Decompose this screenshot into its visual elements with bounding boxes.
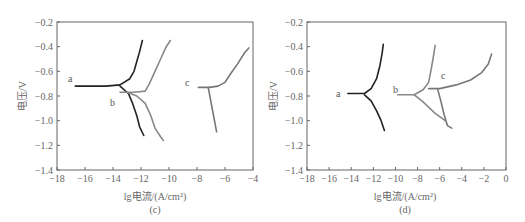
y-tick-label: −1.0 (285, 115, 303, 126)
x-tick-label: −14 (105, 173, 121, 184)
x-tick-label: −4 (248, 173, 259, 184)
y-axis-title: 电压/V (16, 80, 28, 111)
curve-label-c: c (185, 77, 190, 88)
x-tick-label: −6 (220, 173, 231, 184)
curve-label-c: c (441, 70, 446, 81)
curve-a-anodic (75, 41, 142, 87)
x-tick-label: −2 (479, 173, 490, 184)
y-tick-label: −0.2 (35, 17, 53, 28)
x-tick-label: −10 (388, 173, 404, 184)
curve-c-anodic (198, 48, 248, 88)
panel-c: −18−16−14−12−10−8−6−4 −0.2−0.4−0.6−0.8−1… (16, 17, 258, 217)
curve-label-a: a (336, 88, 341, 99)
curve-c-anodic (429, 54, 492, 89)
y-axis-ticks: −0.2−0.4−0.6−0.8−1.0−1.2−1.4 (285, 17, 310, 176)
x-tick-label: 0 (504, 173, 509, 184)
curve-b-anodic (398, 45, 436, 94)
x-tick-label: −4 (456, 173, 467, 184)
x-tick-label: −8 (192, 173, 203, 184)
y-axis-title: 电压/V (267, 80, 279, 111)
panel-caption: (c) (149, 204, 160, 216)
x-tick-label: −8 (412, 173, 423, 184)
y-tick-label: −0.2 (285, 17, 303, 28)
x-tick-label: −12 (366, 173, 382, 184)
figure-canvas: −18−16−14−12−10−8−6−4 −0.2−0.4−0.6−0.8−1… (0, 0, 525, 222)
y-tick-label: −1.2 (35, 140, 53, 151)
curve-c-cathodic (438, 89, 452, 129)
y-tick-label: −0.6 (285, 66, 303, 77)
x-tick-label: −14 (343, 173, 359, 184)
curve-c-cathodic (208, 87, 216, 131)
x-tick-label: −6 (434, 173, 445, 184)
x-tick-label: −16 (321, 173, 337, 184)
y-tick-label: −0.8 (285, 91, 303, 102)
y-tick-label: −0.4 (285, 41, 303, 52)
y-tick-label: −0.4 (35, 41, 53, 52)
x-tick-label: −12 (133, 173, 149, 184)
y-tick-label: −1.0 (35, 115, 53, 126)
y-tick-label: −0.8 (35, 91, 53, 102)
x-tick-label: −10 (161, 173, 177, 184)
curve-label-a: a (68, 73, 73, 84)
y-tick-label: −1.2 (285, 140, 303, 151)
x-tick-label: −16 (77, 173, 93, 184)
curve-b-cathodic (127, 92, 163, 140)
curve-a-cathodic (365, 95, 385, 131)
plot-frame (57, 22, 253, 170)
curve-a-anodic (348, 44, 383, 93)
curve-b-anodic (120, 41, 170, 93)
x-axis-title: lg电流/(A/cm²) (124, 190, 186, 203)
x-axis-title: lg电流/(A/cm²) (374, 190, 436, 203)
curves (348, 44, 492, 130)
y-tick-label: −1.4 (285, 165, 303, 176)
polarization-figure: −18−16−14−12−10−8−6−4 −0.2−0.4−0.6−0.8−1… (0, 0, 525, 222)
y-tick-label: −0.6 (35, 66, 53, 77)
curve-label-b: b (110, 97, 115, 108)
y-axis-ticks: −0.2−0.4−0.6−0.8−1.0−1.2−1.4 (35, 17, 60, 176)
curve-label-b: b (393, 84, 398, 95)
panel-d: −18−16−14−12−10−8−6−4−20 −0.2−0.4−0.6−0.… (267, 17, 509, 217)
y-tick-label: −1.4 (35, 165, 53, 176)
curves (75, 41, 249, 141)
panel-caption: (d) (399, 204, 411, 216)
